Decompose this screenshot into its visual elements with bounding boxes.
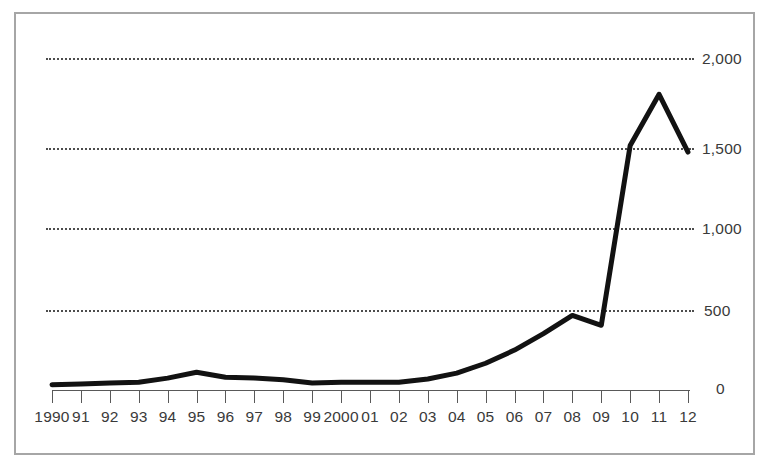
x-axis-tick-label: 12 (679, 408, 697, 426)
data-series-line (52, 94, 688, 384)
x-axis-tick-label: 09 (592, 408, 610, 426)
x-axis-tick-label: 2000 (323, 408, 358, 426)
x-axis-tick (81, 390, 82, 403)
x-axis-tick (601, 390, 602, 403)
x-axis-tick (341, 390, 342, 403)
gridline-500 (46, 310, 694, 312)
x-axis-tick (139, 390, 140, 403)
x-axis-tick-label: 1990 (34, 408, 69, 426)
y-axis-label-1500: 1,500 (702, 140, 742, 158)
x-axis-tick (225, 390, 226, 403)
plot-area: 2,000 1,500 1,000 500 0 1990919293949596… (0, 0, 777, 472)
x-axis-tick-label: 97 (246, 408, 264, 426)
y-axis-label-0: 0 (716, 380, 725, 398)
x-axis-tick-label: 05 (477, 408, 495, 426)
x-axis-tick-label: 11 (651, 408, 668, 426)
x-axis-tick (312, 390, 313, 403)
x-axis-tick (486, 390, 487, 403)
x-axis-tick (254, 390, 255, 403)
x-axis-tick-label: 08 (564, 408, 582, 426)
x-axis-tick (659, 390, 660, 403)
x-axis-tick (197, 390, 198, 403)
chart-figure: 2,000 1,500 1,000 500 0 1990919293949596… (0, 0, 777, 472)
x-axis-tick-label: 06 (506, 408, 524, 426)
x-axis-tick-label: 95 (188, 408, 206, 426)
x-axis-tick (630, 390, 631, 403)
x-axis-tick (52, 390, 53, 403)
gridline-1500 (46, 148, 694, 150)
x-axis-tick (515, 390, 516, 403)
x-axis-tick (168, 390, 169, 403)
y-axis-label-1000: 1,000 (702, 220, 742, 238)
x-axis-tick-label: 98 (274, 408, 292, 426)
x-axis-tick-label: 10 (621, 408, 639, 426)
x-axis-tick (428, 390, 429, 403)
gridline-2000 (46, 58, 694, 60)
x-axis-line (52, 390, 690, 391)
x-axis-tick (370, 390, 371, 403)
x-axis-tick-label: 99 (303, 408, 321, 426)
x-axis-tick (399, 390, 400, 403)
x-axis-tick-label: 93 (130, 408, 148, 426)
x-axis-tick (110, 390, 111, 403)
x-axis-tick-label: 04 (448, 408, 466, 426)
x-axis-tick-label: 07 (535, 408, 553, 426)
x-axis-tick-label: 96 (217, 408, 235, 426)
x-axis-tick (543, 390, 544, 403)
y-axis-label-2000: 2,000 (702, 50, 742, 68)
x-axis-tick (457, 390, 458, 403)
x-axis-tick (688, 390, 689, 403)
gridline-1000 (46, 228, 694, 230)
x-axis-tick-label: 92 (101, 408, 119, 426)
x-axis-tick-label: 01 (361, 408, 379, 426)
x-axis-tick-label: 02 (390, 408, 408, 426)
x-axis-tick (283, 390, 284, 403)
x-axis-tick-label: 03 (419, 408, 437, 426)
x-axis-tick (572, 390, 573, 403)
x-axis-tick-label: 91 (72, 408, 90, 426)
x-axis-tick-label: 94 (159, 408, 177, 426)
y-axis-label-500: 500 (704, 302, 730, 320)
series-svg (0, 0, 777, 472)
